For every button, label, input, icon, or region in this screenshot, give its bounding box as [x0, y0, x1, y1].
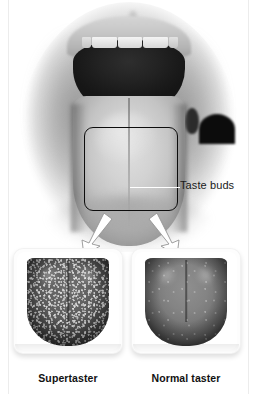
supertaster-card	[13, 248, 123, 354]
tooth	[92, 37, 117, 48]
swatch-vignette	[145, 258, 227, 346]
tongue-region-callout	[84, 127, 178, 211]
normal-taster-card	[131, 248, 241, 354]
taste-buds-figure: Taste buds	[0, 0, 266, 394]
normal-taster-caption: Normal taster	[131, 372, 241, 384]
tonsillar-arch-right	[199, 114, 235, 144]
taste-buds-leader-line	[130, 187, 180, 188]
supertaster-card-inner	[17, 252, 119, 350]
uvula	[185, 108, 199, 134]
normal-taster-card-floor	[133, 344, 239, 353]
supertaster-tongue-swatch	[27, 258, 109, 346]
upper-teeth-row	[82, 37, 178, 48]
supertaster-caption: Supertaster	[13, 372, 123, 384]
normal-taster-tongue-swatch	[145, 258, 227, 346]
tooth	[82, 37, 91, 48]
tooth	[118, 37, 143, 48]
tooth	[169, 37, 178, 48]
normal-taster-card-inner	[135, 252, 237, 350]
open-mouth-photograph	[9, 0, 248, 252]
supertaster-card-floor	[15, 344, 121, 353]
tooth	[143, 37, 168, 48]
taste-buds-label: Taste buds	[180, 179, 234, 192]
comparison-cards	[13, 248, 241, 354]
swatch-vignette	[27, 258, 109, 346]
page-rule-right	[248, 0, 249, 394]
